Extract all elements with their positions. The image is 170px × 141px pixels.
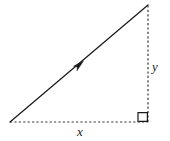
figure-canvas: x y <box>0 0 170 141</box>
right-angle-marker-icon <box>138 112 148 122</box>
vertical-leg-label: y <box>152 60 158 73</box>
vector-arrowhead-icon <box>74 61 84 71</box>
horizontal-leg-label: x <box>77 125 83 138</box>
triangle-diagram-svg <box>0 0 170 141</box>
